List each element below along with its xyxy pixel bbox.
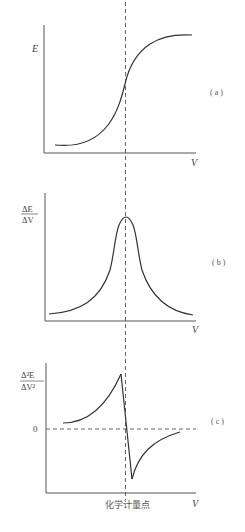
panel-c: Δ²E ΔV² 0 V ( c ) 化学计量点 <box>20 363 224 510</box>
panel-b-y-label-numerator: ΔE <box>22 204 33 214</box>
panel-b-tag: ( b ) <box>212 258 226 267</box>
panel-c-tag: ( c ) <box>211 417 224 426</box>
panel-c-zero-label: 0 <box>33 424 38 434</box>
panel-a: E V ( a ) <box>31 25 223 168</box>
panel-b-y-label-denominator: ΔV <box>22 215 34 225</box>
panel-c-curve-drop <box>121 374 132 479</box>
stoichiometric-point-label: 化学计量点 <box>105 499 150 510</box>
panel-a-x-label: V <box>191 157 199 168</box>
panel-c-curve-left <box>63 374 121 423</box>
panel-a-curve <box>55 35 192 146</box>
panel-a-y-label: E <box>31 43 38 54</box>
panel-c-y-label-numerator: Δ²E <box>21 370 34 380</box>
panel-c-y-label-denominator: ΔV² <box>21 382 36 392</box>
panel-a-tag: ( a ) <box>210 88 223 97</box>
panel-c-x-label: V <box>192 498 200 509</box>
panel-b-x-label: V <box>192 324 200 335</box>
panel-b: ΔE ΔV V ( b ) <box>21 193 226 335</box>
panel-c-curve-right <box>132 432 180 479</box>
titration-diagram: E V ( a ) ΔE ΔV V ( b ) Δ²E ΔV² 0 V ( c … <box>0 0 245 532</box>
panel-b-curve <box>49 217 193 315</box>
